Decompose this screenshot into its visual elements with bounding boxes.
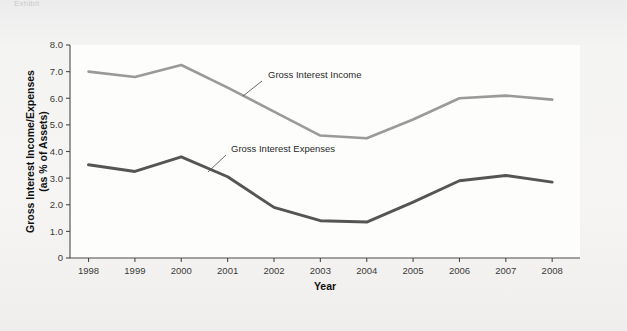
y-axis-tick-label: 2.0 [50,199,63,210]
series-annotations: Gross Interest IncomeGross Interest Expe… [208,69,361,172]
x-axis-tick-label: 2003 [310,265,331,276]
line-chart: 01.02.03.04.05.06.07.08.0 19981999200020… [0,0,627,331]
y-axis: 01.02.03.04.05.06.07.08.0 [50,39,70,263]
y-axis-tick-label: 4.0 [50,146,63,157]
y-axis-tick-label: 3.0 [50,173,63,184]
x-axis-title: Year [314,280,336,292]
y-axis-tick-label: 6.0 [50,93,63,104]
x-axis-tick-label: 2000 [171,265,192,276]
y-axis-title-line-1: Gross Interest Income/Expenses [24,70,36,233]
x-axis-tick-label: 2002 [263,265,284,276]
y-axis-tick-label: 5.0 [50,119,63,130]
y-axis-tick-label: 0 [58,252,63,263]
series-label-2: Gross Interest Expenses [231,143,335,154]
y-axis-tick-label: 7.0 [50,66,63,77]
y-axis-title-line-2: (as % of Assets) [37,111,49,192]
x-axis: 1998199920002001200220032004200520062007… [70,258,580,276]
axis-titles: YearGross Interest Income/Expenses(as % … [24,70,336,292]
x-axis-tick-label: 2007 [495,265,516,276]
x-axis-tick-label: 2006 [449,265,470,276]
x-axis-tick-label: 1998 [78,265,99,276]
series-label-1: Gross Interest Income [268,69,361,80]
series-line-2 [89,157,553,222]
x-axis-tick-label: 2001 [217,265,238,276]
y-axis-tick-label: 8.0 [50,39,63,50]
x-axis-tick-label: 2004 [356,265,377,276]
y-axis-tick-label: 1.0 [50,226,63,237]
series-leader-line-2 [208,155,226,172]
x-axis-tick-label: 2005 [403,265,424,276]
x-axis-tick-label: 1999 [124,265,145,276]
x-axis-tick-label: 2008 [542,265,563,276]
series-leader-line-1 [243,81,262,96]
figure-container: Exhibit 01.02.03.04.05.06.07.08.0 199819… [0,0,627,331]
